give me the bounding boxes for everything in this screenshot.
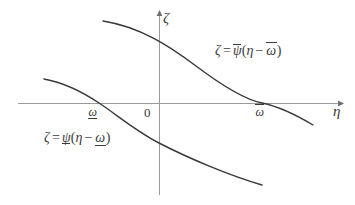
horizontal-axis-label: η (333, 104, 340, 119)
upper-curve-annotation: ζ=ψ(η−ω) (215, 44, 281, 58)
close-paren-glyph: ) (106, 130, 111, 145)
omega-underbar-glyph: ω (95, 131, 106, 145)
upper-curve (103, 21, 313, 125)
equals-glyph: = (50, 130, 62, 145)
equals-glyph: = (221, 43, 233, 58)
zeta-glyph: ζ (44, 130, 50, 145)
minus-glyph: − (82, 130, 94, 145)
omega-underbar-glyph: ω (88, 106, 97, 118)
close-paren-glyph: ) (277, 43, 282, 58)
omega-overbar-glyph: ω (266, 44, 277, 58)
x-tick-omega-lower: ω (88, 106, 97, 118)
omega-overbar-glyph: ω (255, 106, 264, 118)
psi-overbar-glyph: ψ (233, 44, 242, 58)
lower-curve-annotation: ζ=ψ(η−ω) (44, 131, 110, 145)
zeta-glyph: ζ (215, 43, 221, 58)
x-tick-omega-upper: ω (255, 106, 264, 118)
minus-glyph: − (253, 43, 265, 58)
vertical-axis-label: ζ (163, 11, 169, 26)
vertical-axis-arrow-icon (157, 10, 163, 16)
psi-underbar-glyph: ψ (62, 131, 71, 145)
math-figure: ζ η 0 ω ω ζ=ψ(η−ω) ζ=ψ(η−ω) (0, 0, 355, 205)
origin-label: 0 (144, 106, 151, 119)
figure-canvas (0, 0, 355, 205)
